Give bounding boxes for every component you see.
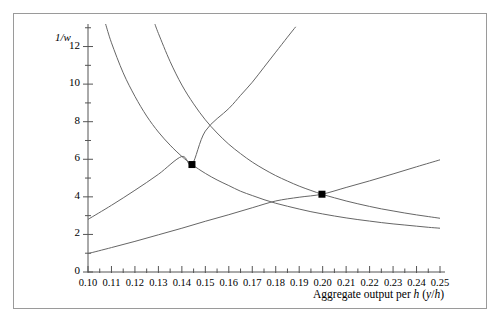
x-axis-label-paren-close: ) xyxy=(440,288,444,300)
curve-price-setting-curve-2 xyxy=(155,24,440,218)
marker-group xyxy=(188,161,325,198)
y-tick-label: 2 xyxy=(50,226,80,238)
x-axis-label-prefix: Aggregate output per xyxy=(313,288,414,300)
y-tick-label: 12 xyxy=(50,39,80,51)
y-tick-label: 0 xyxy=(50,264,80,276)
y-tick-label: 4 xyxy=(50,189,80,201)
y-tick-label: 8 xyxy=(50,114,80,126)
curve-wage-setting-curve-flat xyxy=(88,160,440,254)
x-tick-label: 0.25 xyxy=(420,277,460,288)
y-tick-label: 6 xyxy=(50,151,80,163)
equilibrium-point-2 xyxy=(318,191,325,198)
x-axis-label: Aggregate output per h (y/h) xyxy=(313,288,444,300)
curve-wage-setting-curve-steep xyxy=(88,27,296,220)
curve-price-setting-curve-1 xyxy=(106,24,440,228)
y-tick-label: 10 xyxy=(50,76,80,88)
equilibrium-point-1 xyxy=(188,161,195,168)
curve-group xyxy=(88,24,440,254)
axes xyxy=(88,24,445,272)
